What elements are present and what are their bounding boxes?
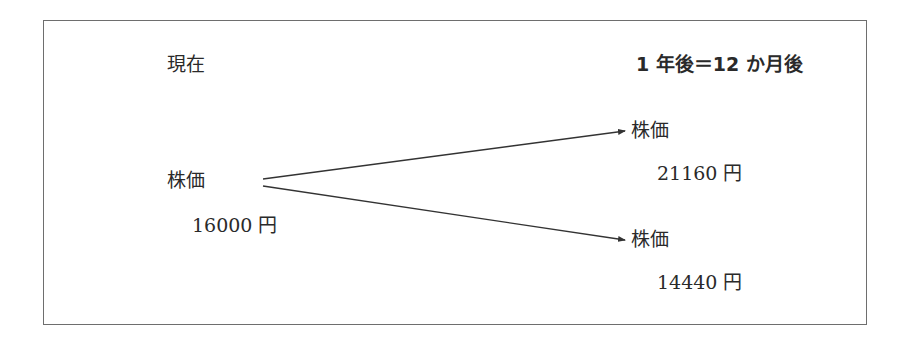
down-node-value: 14440 円 [657,273,742,292]
down-node-title: 株価 [631,230,669,249]
start-node-value: 16000 円 [192,216,277,235]
start-node-title: 株価 [167,171,205,190]
heading-one-year-later: 1 年後＝12 か月後 [636,55,803,74]
up-node-value: 21160 円 [657,164,742,183]
up-node-title: 株価 [631,121,669,140]
heading-now: 現在 [167,55,205,74]
